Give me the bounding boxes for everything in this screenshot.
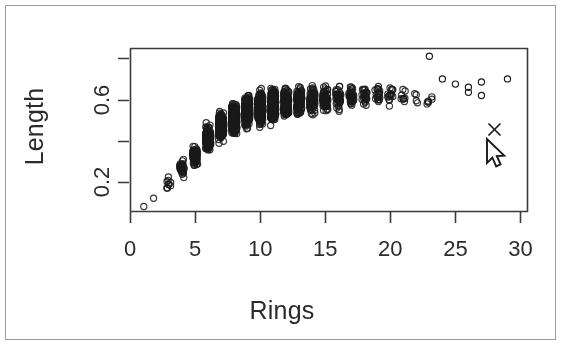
x-tick-label-25: 25 bbox=[425, 236, 485, 262]
y-axis-title: Length bbox=[20, 47, 49, 207]
x-tick-label-20: 20 bbox=[360, 236, 420, 262]
y-tick-label-0.2: 0.2 bbox=[89, 152, 115, 212]
y-tick-label-0.6: 0.6 bbox=[89, 70, 115, 130]
x-tick-label-5: 5 bbox=[165, 236, 225, 262]
x-tick-label-0: 0 bbox=[100, 236, 160, 262]
figure-root: Length Rings 051015202530 0.20.6 bbox=[0, 0, 564, 349]
x-tick-label-30: 30 bbox=[490, 236, 550, 262]
x-axis-title: Rings bbox=[0, 296, 564, 325]
x-tick-label-15: 15 bbox=[295, 236, 355, 262]
x-tick-label-10: 10 bbox=[230, 236, 290, 262]
